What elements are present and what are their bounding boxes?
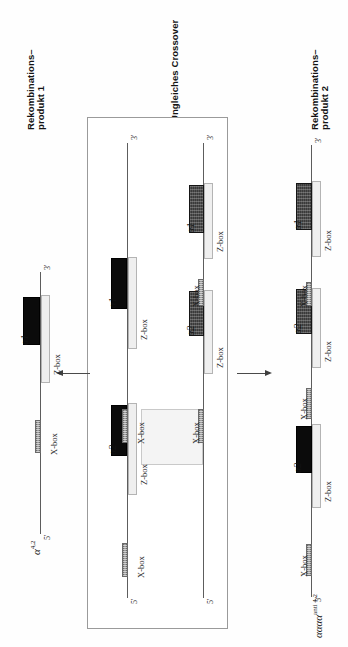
product2-zbox-3 <box>312 181 321 257</box>
product1-xbox <box>35 420 41 453</box>
product2-zbox-2-label: Z-box <box>324 341 333 362</box>
three-prime-label: 3' <box>130 135 139 140</box>
upper-zbox-2-label: Z-box <box>140 319 149 340</box>
product2-gene-alpha2-a-label: α2 <box>293 463 303 473</box>
product2-3prime: 3' <box>315 138 323 143</box>
product2-zbox-2 <box>312 288 321 368</box>
upper-xbox-2-label: X-box <box>137 422 146 444</box>
lower-zbox-2-label: Z-box <box>216 231 225 252</box>
product2-xbox-3-label: X-box <box>300 285 309 307</box>
lower-zbox-1-label: Z-box <box>216 347 225 368</box>
heading-center: Ungleiches Crossover <box>170 20 180 122</box>
lower-gene-alpha2-label: α2 <box>186 326 196 336</box>
upper-xbox-1-label: X-box <box>137 556 146 578</box>
chromosome-upper-3prime: 3' <box>131 135 139 140</box>
upper-zbox-1-label: Z-box <box>140 464 149 485</box>
arrow-to-product2-line <box>237 373 265 374</box>
product1-3prime: 3' <box>44 265 52 270</box>
allele-symbol-left: α <box>30 549 42 555</box>
upper-zbox-1 <box>128 403 137 495</box>
allele-superscript-left: 4,2 <box>29 540 37 549</box>
product1-zbox <box>41 295 50 383</box>
upper-xbox-1 <box>122 543 128 577</box>
upper-gene-alpha2-label: α2 <box>108 445 118 455</box>
arrow-to-product2-head <box>265 370 272 376</box>
product2-gene-alpha1-label: α1 <box>293 220 303 230</box>
upper-xbox-2 <box>122 409 128 443</box>
chromosome-upper-line <box>127 143 128 598</box>
lower-gene-alpha1-label: α1 <box>186 223 196 233</box>
heading-product1: Rekombinations–produkt 1 <box>26 49 45 130</box>
heading-product2-line2: produkt 2 <box>320 49 330 130</box>
upper-zbox-2 <box>128 257 137 349</box>
product2-xbox-2-label: X-box <box>300 398 309 420</box>
heading-center-label: Ungleiches Crossover <box>169 20 180 122</box>
heading-product1-line2: produkt 1 <box>36 49 46 130</box>
upper-gene-alpha1-label: α1 <box>108 298 118 308</box>
product2-zbox-3-label: Z-box <box>324 230 333 251</box>
product2-zbox-1-label: Z-box <box>324 481 333 502</box>
five-prime-label: 5' <box>130 599 139 604</box>
product2-zbox-1 <box>312 424 321 508</box>
figure-canvas: Rekombinations–produkt 1 Ungleiches Cros… <box>0 0 348 647</box>
product2-xbox-1-label: X-box <box>300 555 309 577</box>
product1-5prime: 5' <box>44 535 52 540</box>
chromosome-upper-5prime: 5' <box>131 599 139 604</box>
product1-xbox-label: X-box <box>50 433 59 455</box>
chromosome-lower-3prime: 3' <box>207 135 215 140</box>
lower-xbox-1-label: X-box <box>192 422 201 444</box>
product2-5prime: 5' <box>315 597 323 602</box>
lower-zbox-1 <box>204 290 213 374</box>
allele-symbol-right: αααα <box>312 615 324 638</box>
chromosome-lower-5prime: 5' <box>207 599 215 604</box>
product1-zbox-label: Z-box <box>53 354 62 375</box>
heading-product2: Rekombinations–produkt 2 <box>310 49 329 130</box>
lower-zbox-2 <box>204 183 213 259</box>
allele-label-product1: α4,2 <box>30 540 42 555</box>
lower-xbox-2-label: X-box <box>192 285 201 307</box>
product1-gene-alpha1-label: α1 <box>20 335 30 345</box>
arrow-to-product1-line <box>62 373 90 374</box>
product2-gene-alpha2-b-label: α2 <box>293 324 303 334</box>
